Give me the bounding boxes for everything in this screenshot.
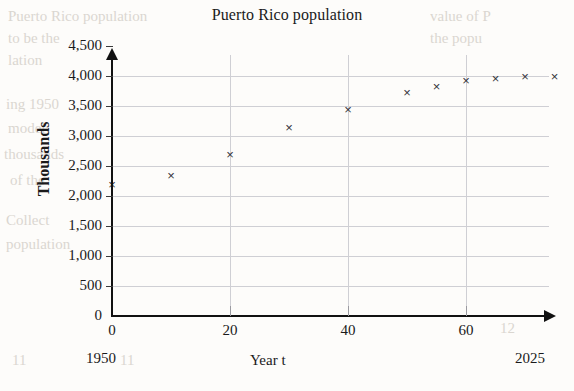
x-axis-end-annotation: 2025 [515,350,545,367]
bleed-text: 12 [500,320,515,337]
gridline [112,76,549,77]
x-axis-tick-label: 60 [441,322,491,339]
x-axis-tick-label: 0 [87,322,137,339]
plot-area: ××××××××××× [112,55,558,316]
x-axis-arrow-icon [544,310,556,322]
vertical-gridline [230,55,231,316]
x-axis-start-annotation: 1950 [86,350,116,367]
x-axis-tick-label: 20 [205,322,255,339]
data-point-marker: × [490,73,501,84]
gridline [112,136,549,137]
y-axis-tick [106,46,113,47]
gridline [112,256,549,257]
gridline [112,106,549,107]
x-axis-tick-label: 40 [323,322,373,339]
x-axis-title: Year t [250,352,286,369]
y-axis-tick [106,196,113,197]
y-axis-tick-label: 500 [42,278,102,293]
data-point-marker: × [225,149,236,160]
gridline [112,226,549,227]
y-axis-tick [106,136,113,137]
y-axis-tick [106,286,113,287]
data-point-marker: × [402,87,413,98]
gridline [112,166,549,167]
bleed-text: 11 [120,352,134,369]
y-axis-line [111,58,113,317]
y-axis-tick-label: 4,500 [42,38,102,53]
data-point-marker: × [284,122,295,133]
gridline [112,196,549,197]
vertical-gridline [348,55,349,316]
y-axis-arrow-icon [106,48,118,60]
data-point-marker: × [166,170,177,181]
bleed-text: the popu [430,30,482,47]
y-axis-tick-label: 1,000 [42,248,102,263]
x-axis-line [112,315,546,317]
y-axis-tick [106,166,113,167]
data-point-marker: × [461,75,472,86]
x-axis-tick [348,306,349,316]
y-axis-title: Thousands [35,79,53,239]
y-axis-tick [106,226,113,227]
data-point-marker: × [431,81,442,92]
x-axis-title-word: Year t [250,352,286,368]
x-axis-tick [466,306,467,316]
y-axis-tick [106,76,113,77]
data-point-marker: × [520,71,531,82]
y-axis-tick [106,256,113,257]
chart-figure: Puerto Rico populationvalue of Pto be th… [0,0,574,391]
gridline [112,286,549,287]
data-point-marker: × [343,104,354,115]
vertical-gridline [466,55,467,316]
data-point-marker: × [549,71,560,82]
x-axis-tick [230,306,231,316]
y-axis-tick-label: 0 [42,308,102,323]
bleed-text: 11 [12,352,26,369]
y-axis-tick [106,106,113,107]
